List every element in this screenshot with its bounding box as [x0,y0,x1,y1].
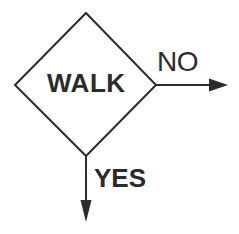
yes-branch-arrowhead [81,200,92,222]
decision-node-label: WALK [47,70,126,96]
branch-label-yes: YES [94,165,146,191]
flowchart-canvas: WALK NO YES [0,0,239,234]
no-branch-arrowhead [209,79,228,92]
flowchart-graphics [0,0,239,234]
branch-label-no: NO [157,48,198,76]
